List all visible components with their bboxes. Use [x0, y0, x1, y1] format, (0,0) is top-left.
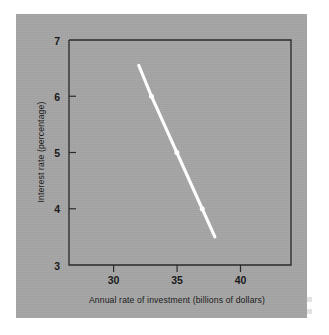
x-tick-label-35: 35 — [171, 274, 183, 286]
scan-edge-artifact-mark — [307, 297, 312, 302]
y-axis-ticks — [69, 96, 76, 209]
y-tick-label-7: 7 — [54, 35, 60, 47]
chart-plot-area: 7 6 5 4 3 30 35 40 Annual rate of invest… — [0, 0, 329, 335]
x-tick-label-40: 40 — [235, 274, 247, 286]
y-axis-title: Interest rate (percentage) — [36, 102, 46, 203]
curve-data-point — [200, 206, 205, 211]
x-axis-ticks — [114, 265, 241, 272]
y-tick-label-5: 5 — [54, 147, 60, 159]
x-tick-label-30: 30 — [108, 274, 120, 286]
figure-root: 7 6 5 4 3 30 35 40 Annual rate of invest… — [0, 0, 329, 335]
x-axis-title: Annual rate of investment (billions of d… — [89, 295, 265, 305]
curve-data-point — [149, 94, 154, 99]
scan-edge-artifact-mark — [307, 309, 312, 314]
y-tick-label-4: 4 — [54, 203, 60, 215]
plot-frame — [69, 40, 291, 265]
scan-edge-artifacts — [307, 297, 325, 327]
curve-data-point — [174, 150, 179, 155]
y-tick-label-6: 6 — [54, 91, 60, 103]
y-tick-label-3: 3 — [54, 260, 60, 272]
